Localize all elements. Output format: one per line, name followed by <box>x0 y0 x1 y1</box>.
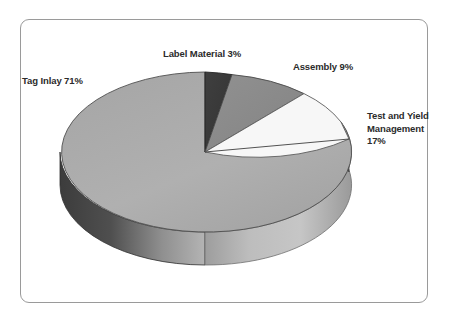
chart-canvas: Tag Inlay 71% Label Material 3% Assembly… <box>0 0 450 326</box>
pie-3d-body <box>60 72 352 265</box>
slice-label-label-material: Label Material 3% <box>148 48 256 61</box>
slice-label-test-and-yield-management: Test and Yield Management 17% <box>367 110 441 148</box>
slice-label-tag-inlay: Tag Inlay 71% <box>22 75 122 88</box>
slice-label-assembly: Assembly 9% <box>278 61 368 74</box>
